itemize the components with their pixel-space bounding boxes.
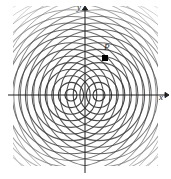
x-axis-label: x — [159, 93, 163, 102]
interference-figure: y x P — [0, 0, 171, 179]
x-axis-arrowhead — [165, 92, 169, 97]
point-p-label: P — [104, 43, 110, 52]
wave-pattern-canvas — [0, 0, 171, 179]
y-axis-label: y — [77, 3, 81, 12]
point-p-marker — [102, 55, 108, 61]
